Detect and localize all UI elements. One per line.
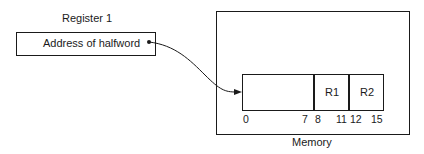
arrowhead-icon: [234, 89, 242, 95]
pointer-arrow: [0, 0, 424, 154]
